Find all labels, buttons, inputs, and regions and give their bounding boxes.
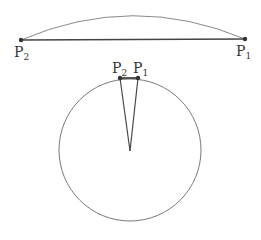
diagram-svg: P2 P1 P2 P1 [0, 0, 261, 240]
diagram-canvas: P2 P1 P2 P1 [0, 0, 261, 240]
top-label-p2: P2 [14, 44, 29, 62]
top-chord [21, 39, 245, 40]
top-point-p1 [243, 37, 247, 41]
circle-label-p2: P2 [112, 60, 127, 78]
circle-label-p1: P1 [133, 60, 148, 78]
circle-point-p1 [136, 76, 140, 80]
top-label-p1: P1 [236, 43, 251, 61]
top-arc [21, 16, 245, 40]
radius-line-p1 [130, 78, 138, 151]
top-point-p2 [19, 38, 23, 42]
radius-line-p2 [120, 78, 130, 151]
circle-figure: P2 P1 [59, 60, 201, 221]
top-figure: P2 P1 [14, 16, 251, 62]
